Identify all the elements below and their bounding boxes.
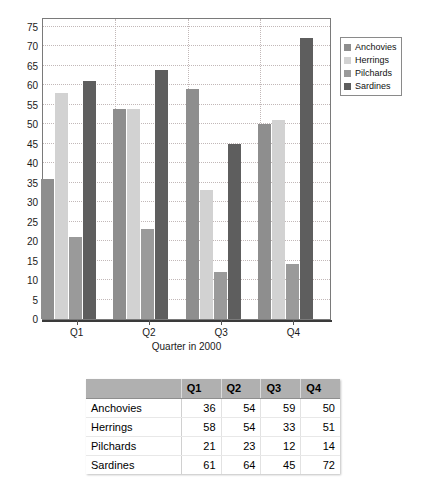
bar-pilchards-q4 (286, 264, 299, 319)
y-axis-tick-label: 70 (12, 42, 38, 52)
table-cell-anchovies-q4: 50 (301, 398, 340, 417)
chart-legend: Anchovies Herrings Pilchards Sardines (340, 37, 402, 96)
table-cell-anchovies-q2: 54 (221, 398, 261, 417)
legend-swatch-anchovies (344, 44, 351, 51)
bar-pilchards-q2 (141, 229, 154, 319)
table-cell-sardines-q3: 45 (261, 455, 301, 474)
table-col-q1: Q1 (181, 379, 221, 398)
legend-item-pilchards[interactable]: Pilchards (344, 67, 397, 79)
legend-item-anchovies[interactable]: Anchovies (344, 41, 397, 53)
table-body: Anchovies36545950Herrings58543351Pilchar… (86, 398, 340, 474)
y-axis-tick-label: 25 (12, 218, 38, 228)
x-axis-tick-label-q4: Q4 (273, 327, 313, 339)
y-axis-tick-label: 35 (12, 179, 38, 189)
y-axis-tick-label: 65 (12, 62, 38, 72)
bar-anchovies-q2 (113, 109, 126, 319)
y-axis-tick-label: 20 (12, 237, 38, 247)
legend-item-herrings[interactable]: Herrings (344, 54, 397, 66)
gridline-horizontal (43, 45, 330, 46)
x-axis-line (42, 320, 332, 322)
table-row: Herrings58543351 (86, 417, 340, 436)
gridline-horizontal (43, 26, 330, 27)
table-row: Sardines61644572 (86, 455, 340, 474)
table-cell-pilchards-q1: 21 (181, 436, 221, 455)
y-axis-tick-label: 45 (12, 140, 38, 150)
table-col-q3: Q3 (261, 379, 301, 398)
y-axis-tick-label: 10 (12, 276, 38, 286)
bar-sardines-q4 (300, 38, 313, 319)
table-col-q2: Q2 (221, 379, 261, 398)
y-axis-tick-label: 40 (12, 159, 38, 169)
table-corner-cell (86, 379, 181, 398)
table-cell-pilchards-q3: 12 (261, 436, 301, 455)
table-cell-pilchards-q4: 14 (301, 436, 340, 455)
bar-sardines-q3 (228, 144, 241, 319)
table-cell-anchovies-q1: 36 (181, 398, 221, 417)
table-cell-sardines-q4: 72 (301, 455, 340, 474)
y-axis-tick-label: 60 (12, 81, 38, 91)
legend-swatch-herrings (344, 57, 351, 64)
y-axis: 051015202530354045505560657075 (8, 18, 38, 320)
legend-label-pilchards: Pilchards (355, 69, 392, 78)
bar-anchovies-q4 (258, 124, 271, 319)
table-cell-herrings-q2: 54 (221, 417, 261, 436)
x-axis-tick-mark (77, 320, 78, 325)
table-row-label: Herrings (86, 417, 181, 436)
legend-swatch-sardines (344, 83, 351, 90)
bar-anchovies-q1 (41, 179, 54, 319)
x-axis-tick-mark (149, 320, 150, 325)
x-axis-tick-label-q1: Q1 (57, 327, 97, 339)
x-axis-tick-label-q3: Q3 (201, 327, 241, 339)
legend-label-sardines: Sardines (355, 82, 391, 91)
table-row: Anchovies36545950 (86, 398, 340, 417)
table-cell-anchovies-q3: 59 (261, 398, 301, 417)
x-axis-title: Quarter in 2000 (42, 341, 331, 352)
bar-herrings-q3 (200, 190, 213, 319)
legend-label-herrings: Herrings (355, 56, 389, 65)
gridline-horizontal (43, 65, 330, 66)
table-cell-herrings-q4: 51 (301, 417, 340, 436)
table-cell-sardines-q2: 64 (221, 455, 261, 474)
table-col-q4: Q4 (301, 379, 340, 398)
legend-item-sardines[interactable]: Sardines (344, 80, 397, 92)
plot-area (42, 18, 331, 320)
bar-anchovies-q3 (186, 89, 199, 319)
bar-herrings-q2 (127, 109, 140, 319)
y-axis-tick-label: 30 (12, 198, 38, 208)
bar-herrings-q4 (272, 120, 285, 319)
bar-sardines-q1 (83, 81, 96, 319)
y-axis-tick-label: 50 (12, 120, 38, 130)
legend-swatch-pilchards (344, 70, 351, 77)
table-row-label: Pilchards (86, 436, 181, 455)
table-header-row: Q1 Q2 Q3 Q4 (86, 379, 340, 398)
y-axis-tick-label: 0 (12, 315, 38, 325)
table-header: Q1 Q2 Q3 Q4 (86, 379, 340, 398)
x-axis-tick-mark (221, 320, 222, 325)
y-axis-tick-label: 75 (12, 23, 38, 33)
y-axis-tick-label: 5 (12, 296, 38, 306)
plot-inner (43, 19, 330, 319)
x-axis-tick-mark (293, 320, 294, 325)
bar-herrings-q1 (55, 93, 68, 319)
bar-chart: 051015202530354045505560657075 Q1Q2Q3Q4 … (0, 0, 426, 360)
table-cell-herrings-q3: 33 (261, 417, 301, 436)
bar-sardines-q2 (155, 70, 168, 319)
table-cell-sardines-q1: 61 (181, 455, 221, 474)
y-axis-tick-label: 15 (12, 257, 38, 267)
x-axis-tick-label-q2: Q2 (129, 327, 169, 339)
legend-label-anchovies: Anchovies (355, 43, 397, 52)
bar-pilchards-q3 (214, 272, 227, 319)
table-row: Pilchards21231214 (86, 436, 340, 455)
table-row-label: Sardines (86, 455, 181, 474)
table-cell-herrings-q1: 58 (181, 417, 221, 436)
data-table: Q1 Q2 Q3 Q4 Anchovies36545950Herrings585… (86, 379, 340, 474)
y-axis-tick-label: 55 (12, 101, 38, 111)
table-cell-pilchards-q2: 23 (221, 436, 261, 455)
bar-pilchards-q1 (69, 237, 82, 319)
table-row-label: Anchovies (86, 398, 181, 417)
